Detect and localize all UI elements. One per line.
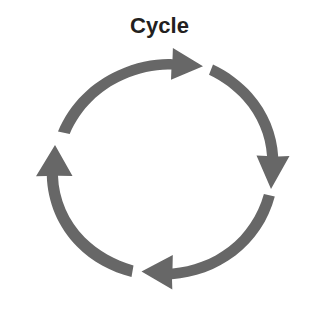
cycle-arrow-left [36,145,134,277]
cycle-arrow-top [58,48,203,134]
cycle-arrows-graphic [0,0,319,318]
cycle-arrow-right [209,65,290,190]
cycle-diagram: Cycle [0,0,319,318]
cycle-arrow-bottom-band [142,194,275,290]
